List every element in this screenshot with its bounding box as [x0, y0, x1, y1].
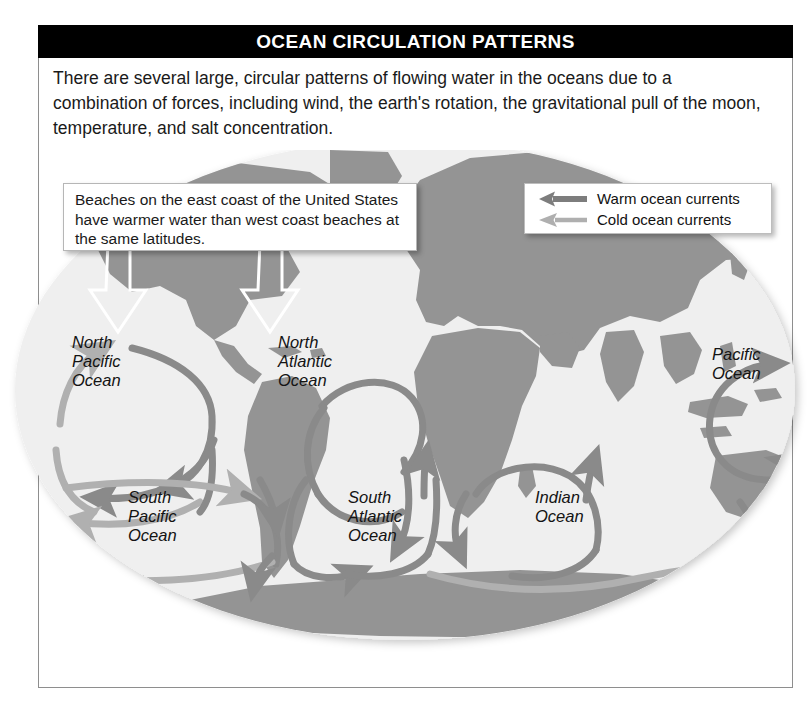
- cold-current-left-arrow-icon: [535, 210, 591, 230]
- label-north-atlantic-ocean: North Atlantic Ocean: [278, 333, 332, 390]
- legend-label-cold: Cold ocean currents: [597, 211, 731, 228]
- intro-paragraph: There are several large, circular patter…: [53, 66, 769, 141]
- callout-text: Beaches on the east coast of the United …: [75, 190, 407, 249]
- warm-current-left-arrow-icon: [535, 189, 591, 209]
- label-south-pacific-ocean: South Pacific Ocean: [128, 488, 177, 545]
- label-south-atlantic-ocean: South Atlantic Ocean: [348, 488, 402, 545]
- legend-item-cold: Cold ocean currents: [535, 209, 763, 230]
- legend-box: Warm ocean currents Cold ocean currents: [524, 183, 772, 234]
- legend-item-warm: Warm ocean currents: [535, 188, 763, 209]
- callout-box: Beaches on the east coast of the United …: [63, 183, 417, 251]
- label-north-pacific-ocean: North Pacific Ocean: [72, 333, 121, 390]
- legend-label-warm: Warm ocean currents: [597, 190, 740, 207]
- page-title: OCEAN CIRCULATION PATTERNS: [256, 31, 575, 53]
- figure-title-bar: OCEAN CIRCULATION PATTERNS: [38, 25, 793, 58]
- label-pacific-ocean: Pacific Ocean: [712, 345, 761, 383]
- ocean-circulation-figure: North Pacific Ocean North Atlantic Ocean…: [0, 0, 810, 702]
- label-indian-ocean: Indian Ocean: [535, 488, 584, 526]
